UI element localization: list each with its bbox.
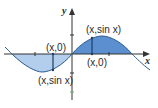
right-curve-point — [91, 37, 93, 39]
right-axis-point — [91, 53, 93, 55]
left-axis-point — [52, 53, 54, 55]
y-axis-arrow-icon — [69, 8, 75, 15]
left-curve-point — [52, 69, 54, 71]
right-axis-point-label: (x,0) — [87, 57, 107, 68]
y-axis-label: y — [61, 5, 67, 16]
x-axis-label: x — [144, 55, 150, 66]
sine-diagram: y x (x,0) (x,sin x) (x,sin x) (x,0) — [0, 0, 158, 108]
right-curve-point-label: (x,sin x) — [86, 24, 121, 35]
left-curve-point-label: (x,sin x) — [38, 75, 73, 86]
left-axis-point-label: (x,0) — [46, 42, 66, 53]
